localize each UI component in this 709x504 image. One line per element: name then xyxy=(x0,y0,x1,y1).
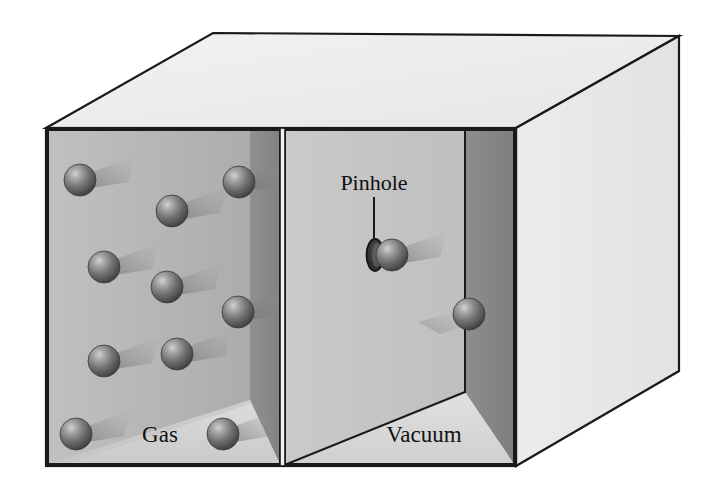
molecule xyxy=(207,418,239,450)
gas-label: Gas xyxy=(142,422,178,447)
diagram-canvas: Pinhole Gas Vacuum xyxy=(0,0,709,504)
pinhole-label: Pinhole xyxy=(340,170,407,195)
molecule xyxy=(453,298,485,330)
molecule xyxy=(60,418,92,450)
molecule xyxy=(88,345,120,377)
vacuum-label: Vacuum xyxy=(386,422,461,447)
molecule xyxy=(64,164,96,196)
vacuum-molecules xyxy=(453,298,485,330)
effusion-diagram: Pinhole Gas Vacuum xyxy=(0,0,709,504)
partition-wall xyxy=(280,128,285,466)
molecule xyxy=(222,296,254,328)
molecule xyxy=(161,338,193,370)
pinhole-assembly xyxy=(367,239,409,271)
molecule xyxy=(223,166,255,198)
molecule xyxy=(88,251,120,283)
molecule xyxy=(151,271,183,303)
molecule-escaping xyxy=(376,239,408,271)
molecule xyxy=(156,195,188,227)
